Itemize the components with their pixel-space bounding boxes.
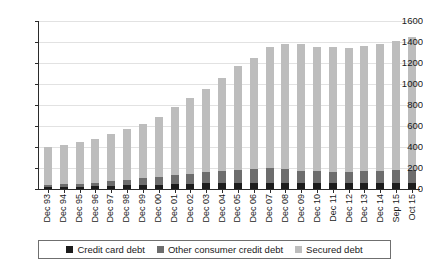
bar-slot <box>230 21 246 189</box>
bar-slot <box>167 21 183 189</box>
x-label-slot: Dec 94 <box>55 194 71 236</box>
x-tick-mark <box>317 189 318 193</box>
bar-segment-secured-debt <box>171 107 179 175</box>
x-tick-mark <box>143 189 144 193</box>
bar-slot <box>56 21 72 189</box>
y-tick-mark <box>35 42 39 43</box>
bar[interactable] <box>186 98 194 189</box>
bar-segment-other-consumer-credit-debt <box>202 172 210 183</box>
x-label-slot: Dec 08 <box>277 194 293 236</box>
bar-segment-secured-debt <box>297 44 305 170</box>
bar[interactable] <box>376 44 384 189</box>
x-tick-mark <box>127 189 128 193</box>
legend-swatch-icon <box>295 246 302 253</box>
x-tick-mark <box>64 189 65 193</box>
bar[interactable] <box>329 47 337 189</box>
bar-segment-other-consumer-credit-debt <box>218 171 226 183</box>
bar[interactable] <box>44 147 52 189</box>
chart-legend: Credit card debtOther consumer credit de… <box>38 240 391 259</box>
x-tick-mark <box>190 189 191 193</box>
bar-slot <box>72 21 88 189</box>
bar[interactable] <box>139 124 147 189</box>
bar[interactable] <box>107 134 115 189</box>
bar[interactable] <box>202 89 210 189</box>
bar-slot <box>182 21 198 189</box>
x-tick-mark <box>380 189 381 193</box>
bar-segment-secured-debt <box>155 117 163 177</box>
y-tick-label: 1200 <box>389 58 423 68</box>
bar[interactable] <box>313 47 321 189</box>
x-tick-mark <box>301 189 302 193</box>
legend-label: Credit card debt <box>77 245 145 255</box>
x-axis-label: Sep 15 <box>392 194 401 223</box>
legend-item[interactable]: Credit card debt <box>66 245 145 255</box>
bar-slot <box>262 21 278 189</box>
bar-slot <box>103 21 119 189</box>
bar-segment-secured-debt <box>250 58 258 170</box>
x-label-slot: Dec 96 <box>87 194 103 236</box>
x-axis-label: Dec 94 <box>58 194 67 223</box>
y-tick-mark <box>35 21 39 22</box>
x-axis-label: Dec 05 <box>233 194 242 223</box>
x-axis-label: Dec 00 <box>154 194 163 223</box>
bar-segment-other-consumer-credit-debt <box>360 171 368 183</box>
x-tick-mark <box>222 189 223 193</box>
bar[interactable] <box>281 44 289 189</box>
bar[interactable] <box>360 46 368 189</box>
x-label-slot: Dec 01 <box>166 194 182 236</box>
x-axis-label: Dec 11 <box>328 194 337 222</box>
x-axis-label: Dec 03 <box>201 194 210 223</box>
bar[interactable] <box>123 129 131 189</box>
x-axis-label: Dec 98 <box>122 194 131 223</box>
y-tick-label: 1600 <box>389 16 423 26</box>
legend-label: Secured debt <box>306 245 363 255</box>
legend-item[interactable]: Other consumer credit debt <box>157 245 283 255</box>
y-tick-label: 1400 <box>389 37 423 47</box>
bar-segment-other-consumer-credit-debt <box>171 175 179 184</box>
y-tick-mark <box>35 189 39 190</box>
x-tick-mark <box>111 189 112 193</box>
bar-segment-other-consumer-credit-debt <box>266 168 274 182</box>
x-axis-label: Dec 13 <box>360 194 369 223</box>
bar[interactable] <box>171 107 179 189</box>
bar[interactable] <box>60 145 68 189</box>
x-label-slot: Dec 02 <box>182 194 198 236</box>
bar[interactable] <box>218 78 226 189</box>
bar-segment-other-consumer-credit-debt <box>186 174 194 184</box>
bar-segment-secured-debt <box>345 48 353 171</box>
bar[interactable] <box>297 44 305 189</box>
bar-segment-secured-debt <box>360 46 368 171</box>
bar-segment-secured-debt <box>329 47 337 171</box>
x-tick-mark <box>254 189 255 193</box>
bar-slot <box>325 21 341 189</box>
bar-segment-secured-debt <box>107 134 115 181</box>
stacked-bar-chart: 16001400120010008006004002000 Dec 93Dec … <box>0 0 423 264</box>
bar[interactable] <box>234 66 242 189</box>
x-axis-label: Dec 12 <box>344 194 353 223</box>
x-axis-label: Dec 04 <box>217 194 226 223</box>
bar-slot <box>246 21 262 189</box>
x-label-slot: Dec 12 <box>341 194 357 236</box>
x-label-slot: Dec 00 <box>150 194 166 236</box>
bar[interactable] <box>250 58 258 189</box>
bar[interactable] <box>155 117 163 189</box>
bar-slot <box>214 21 230 189</box>
legend-item[interactable]: Secured debt <box>295 245 363 255</box>
bar-segment-secured-debt <box>376 44 384 171</box>
bar-segment-secured-debt <box>123 129 131 180</box>
bar[interactable] <box>345 48 353 189</box>
y-tick-label: 200 <box>389 163 423 173</box>
x-label-slot: Dec 14 <box>372 194 388 236</box>
bar[interactable] <box>266 47 274 189</box>
bar-segment-secured-debt <box>218 78 226 171</box>
x-label-slot: Dec 09 <box>293 194 309 236</box>
bar-slot <box>277 21 293 189</box>
x-axis-label: Dec 08 <box>281 194 290 223</box>
bar[interactable] <box>76 142 84 189</box>
bar[interactable] <box>91 139 99 189</box>
x-label-slot: Dec 06 <box>245 194 261 236</box>
x-axis-labels: Dec 93Dec 94Dec 95Dec 96Dec 97Dec 98Dec … <box>39 194 420 236</box>
y-tick-mark <box>35 147 39 148</box>
bar-segment-other-consumer-credit-debt <box>376 171 384 183</box>
bar-slot <box>198 21 214 189</box>
